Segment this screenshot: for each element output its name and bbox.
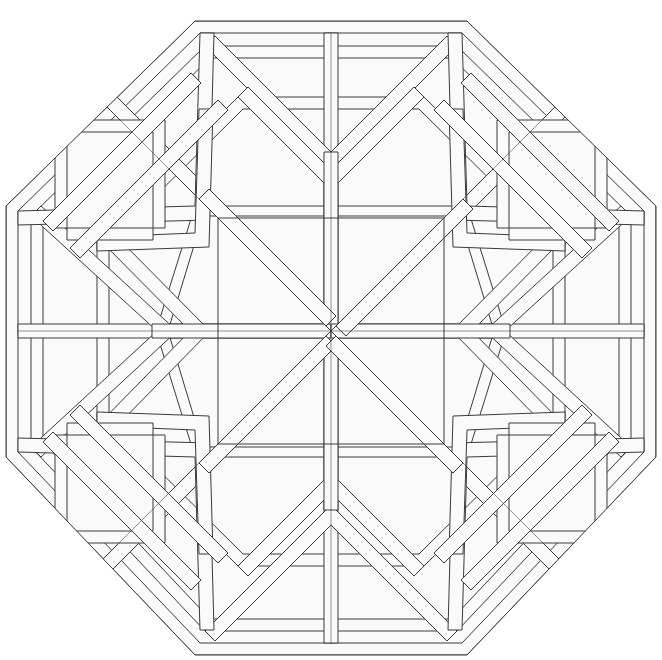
octagon-interlace-diagram [0,0,662,660]
figure-root: Octagonal Interlaced Band Pattern Symmet… [0,0,662,660]
